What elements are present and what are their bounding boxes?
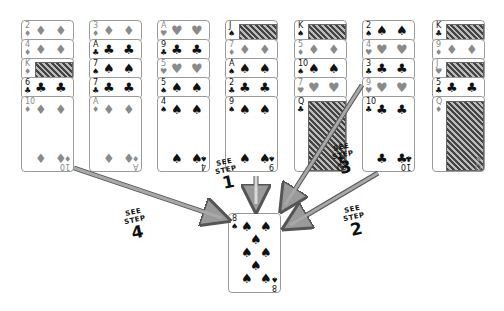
arrow-step-4	[74, 168, 222, 218]
move-arrows	[0, 0, 504, 311]
